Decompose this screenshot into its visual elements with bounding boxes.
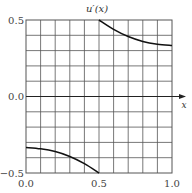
y-tick-label: 0.5 bbox=[8, 15, 24, 26]
x-tick-labels: 0.00.51.0 bbox=[18, 178, 180, 189]
curve-left-branch bbox=[26, 147, 99, 173]
x-axis-label: x bbox=[181, 100, 186, 110]
x-tick-label: 0.0 bbox=[18, 178, 34, 189]
chart-title: u′(x) bbox=[86, 3, 108, 14]
x-tick-label: 1.0 bbox=[164, 178, 180, 189]
x-axis bbox=[26, 94, 186, 99]
curve-right-branch bbox=[99, 20, 172, 46]
y-tick-labels: −0.50.00.5 bbox=[0, 15, 24, 179]
x-tick-label: 0.5 bbox=[91, 178, 107, 189]
y-tick-label: −0.5 bbox=[0, 168, 24, 179]
arrow-right-icon bbox=[179, 94, 186, 99]
chart: u′(x) x 0.00.51.0 −0.50.00.5 bbox=[0, 0, 192, 193]
y-tick-label: 0.0 bbox=[8, 91, 24, 102]
